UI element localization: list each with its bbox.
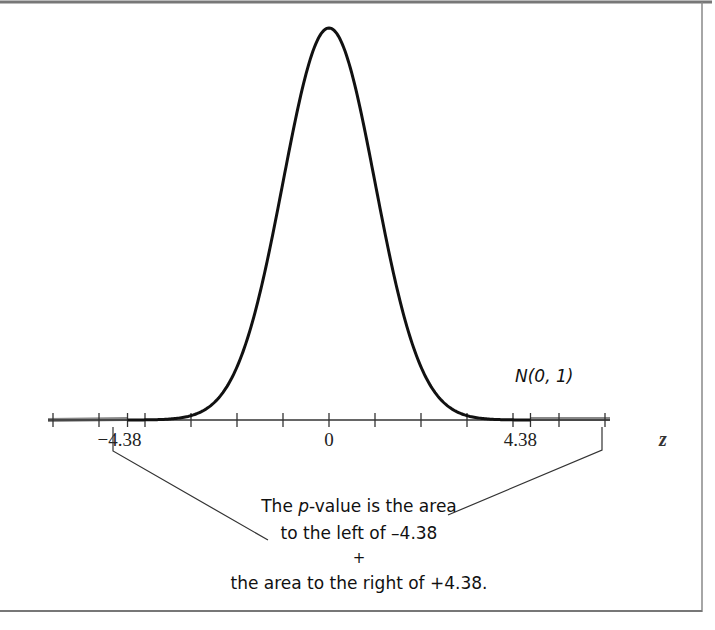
annotation-line-1-post: -value is the area [309, 496, 457, 516]
annotation-line-2: to the left of –4.38 [281, 523, 438, 543]
tick-label-4.38: 4.38 [504, 429, 537, 450]
annotation-line-1: The p-value is the area [260, 496, 457, 516]
x-axis-label: z [658, 428, 667, 450]
annotation-line-4: the area to the right of +4.38. [230, 573, 487, 593]
normal-curve-chart: −4.38 0 4.38 z N(0, 1) The p-value is th… [0, 0, 715, 630]
annotation-p-italic: p [297, 496, 309, 516]
tick-label-neg-4.38: −4.38 [98, 429, 142, 450]
curve-label-text: N(0, 1) [515, 366, 573, 386]
normal-density-curve [128, 28, 531, 420]
annotation-plus: + [353, 549, 366, 567]
figure-frame: −4.38 0 4.38 z N(0, 1) The p-value is th… [0, 0, 715, 630]
tick-label-0: 0 [324, 429, 334, 450]
curve-label: N(0, 1) [515, 366, 573, 386]
annotation-line-1-pre: The [260, 496, 298, 516]
